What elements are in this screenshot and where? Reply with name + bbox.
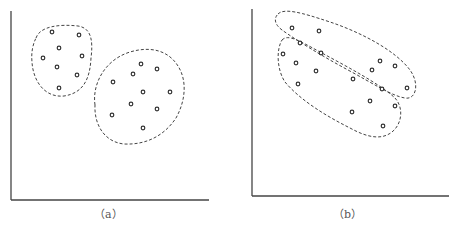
- panel-a-cluster-1-boundary: [32, 25, 92, 96]
- panel-b-cluster-lower-point: [380, 87, 384, 91]
- panel-b-cluster-lower-point: [393, 104, 397, 108]
- panel-b-cluster-upper-point: [319, 51, 323, 55]
- panel-a-cluster-2-point: [111, 80, 115, 84]
- panel-a-cluster-1-point: [57, 86, 61, 90]
- panel-b-cluster-lower-point: [381, 124, 385, 128]
- panel-a-cluster-1-point: [75, 73, 79, 77]
- panel-a-cluster-2-point: [168, 90, 172, 94]
- panel-a-caption: （a）: [94, 205, 123, 221]
- panel-b: [252, 9, 449, 196]
- panel-b-cluster-lower-point: [281, 52, 285, 56]
- panel-a-cluster-2-point: [141, 126, 145, 130]
- panel-b-cluster-lower-point: [296, 82, 300, 86]
- panel-a-cluster-2-point: [131, 72, 135, 76]
- panel-a-cluster-2-point: [141, 90, 145, 94]
- panel-a-cluster-2-point: [139, 62, 143, 66]
- panel-b-cluster-lower-point: [294, 61, 298, 65]
- panel-b-cluster-lower-point: [314, 69, 318, 73]
- panel-a-cluster-2-point: [155, 107, 159, 111]
- panel-a-cluster-1-point: [80, 54, 84, 58]
- panel-b-cluster-upper-point: [378, 59, 382, 63]
- panel-a-cluster-1-point: [55, 65, 59, 69]
- panel-b-cluster-lower-point: [351, 77, 355, 81]
- panel-a-cluster-2-point: [155, 67, 159, 71]
- panel-a-cluster-1-point: [77, 33, 81, 37]
- diagram-canvas: [0, 0, 450, 225]
- panel-b-cluster-upper-point: [393, 64, 397, 68]
- panel-a-cluster-1-point: [50, 30, 54, 34]
- panel-a-cluster-2-point: [110, 113, 114, 117]
- panel-b-cluster-lower-point: [350, 110, 354, 114]
- panel-b-cluster-upper-point: [370, 68, 374, 72]
- panel-b-cluster-lower-point: [368, 99, 372, 103]
- panel-b-cluster-upper-point: [405, 86, 409, 90]
- panel-b-cluster-upper-point: [317, 29, 321, 33]
- panel-b-cluster-upper-point: [290, 26, 294, 30]
- panel-b-caption: （b）: [333, 205, 362, 221]
- panel-a: [11, 11, 209, 200]
- panel-a-cluster-1-point: [41, 56, 45, 60]
- panel-b-cluster-upper-point: [298, 41, 302, 45]
- panel-a-cluster-2-point: [129, 102, 133, 106]
- panel-a-cluster-1-point: [57, 46, 61, 50]
